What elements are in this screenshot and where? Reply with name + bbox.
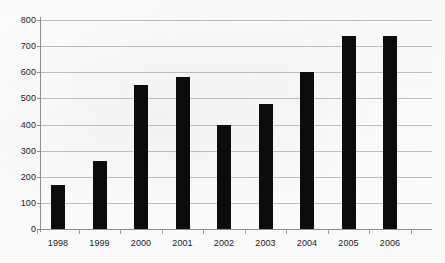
plot-area bbox=[41, 20, 432, 229]
y-axis-label-200: 200 bbox=[2, 173, 36, 182]
y-tick-mark-300 bbox=[37, 151, 41, 152]
y-tick-mark-500 bbox=[37, 98, 41, 99]
bar-2001 bbox=[176, 77, 190, 229]
y-axis-label-100: 100 bbox=[2, 199, 36, 208]
x-axis-label-1998: 1998 bbox=[38, 238, 78, 248]
y-tick-mark-700 bbox=[37, 46, 41, 47]
bar-2000 bbox=[134, 85, 148, 229]
bar-2004 bbox=[300, 72, 314, 229]
y-axis-label-400: 400 bbox=[2, 121, 36, 130]
bar-2002 bbox=[217, 125, 231, 230]
bar-2003 bbox=[259, 104, 273, 229]
bar-1998 bbox=[51, 185, 65, 229]
y-tick-mark-0 bbox=[37, 229, 41, 230]
x-tick-mark-2003 bbox=[245, 230, 246, 234]
y-tick-mark-400 bbox=[37, 125, 41, 126]
x-axis-label-2005: 2005 bbox=[329, 238, 369, 248]
x-axis-label-2002: 2002 bbox=[204, 238, 244, 248]
bar-1999 bbox=[93, 161, 107, 229]
x-axis-label-2000: 2000 bbox=[121, 238, 161, 248]
bar-chart: 0100200300400500600700800 19981999200020… bbox=[0, 0, 445, 263]
gridline-300 bbox=[41, 151, 432, 152]
gridline-700 bbox=[41, 46, 432, 47]
x-axis-label-2006: 2006 bbox=[370, 238, 410, 248]
y-axis-label-300: 300 bbox=[2, 147, 36, 156]
x-axis-label-2001: 2001 bbox=[163, 238, 203, 248]
y-axis-label-600: 600 bbox=[2, 68, 36, 77]
x-axis-label-2004: 2004 bbox=[287, 238, 327, 248]
bar-2005 bbox=[342, 36, 356, 229]
x-tick-mark-2004 bbox=[286, 230, 287, 234]
gridline-500 bbox=[41, 98, 432, 99]
y-axis-label-500: 500 bbox=[2, 94, 36, 103]
bar-2006 bbox=[383, 36, 397, 229]
x-tick-mark-2006 bbox=[369, 230, 370, 234]
x-axis-label-1999: 1999 bbox=[80, 238, 120, 248]
y-axis-label-0: 0 bbox=[2, 225, 36, 234]
x-tick-mark-end bbox=[411, 230, 412, 234]
y-tick-mark-800 bbox=[37, 20, 41, 21]
x-tick-mark-2005 bbox=[328, 230, 329, 234]
y-axis-label-800: 800 bbox=[2, 16, 36, 25]
x-tick-mark-1998 bbox=[37, 230, 38, 234]
y-tick-mark-100 bbox=[37, 203, 41, 204]
x-tick-mark-2002 bbox=[203, 230, 204, 234]
y-tick-mark-200 bbox=[37, 177, 41, 178]
x-axis-label-2003: 2003 bbox=[246, 238, 286, 248]
x-tick-mark-2000 bbox=[120, 230, 121, 234]
x-axis-line bbox=[41, 229, 432, 230]
y-tick-mark-600 bbox=[37, 72, 41, 73]
gridline-600 bbox=[41, 72, 432, 73]
x-tick-mark-2001 bbox=[162, 230, 163, 234]
x-tick-mark-1999 bbox=[79, 230, 80, 234]
gridline-400 bbox=[41, 125, 432, 126]
y-axis-label-700: 700 bbox=[2, 42, 36, 51]
gridline-800 bbox=[41, 20, 432, 21]
